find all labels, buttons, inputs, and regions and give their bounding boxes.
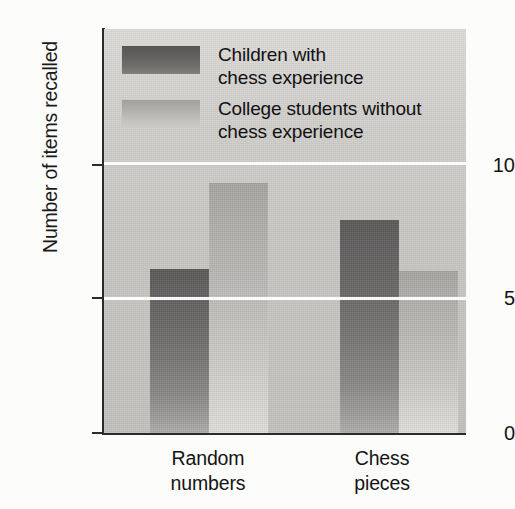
gridline-5 [104,297,466,300]
bar-college-students-random-numbers [209,183,268,433]
legend-item-college-students: College students without chess experienc… [122,97,421,143]
y-axis-title: Number of items recalled [39,12,65,282]
x-category-label-chess-pieces: Chess pieces [312,446,452,496]
bar-chart-figure: Number of items recalled 10 5 0 Children… [0,0,515,509]
y-tick-label-5: 5 [473,288,515,308]
y-tick-label-10: 10 [473,155,515,175]
legend: Children with chess experience College s… [104,29,466,157]
x-category-label-random-numbers: Random numbers [128,446,288,496]
bar-children-random-numbers [150,269,209,433]
legend-swatch-college-students-icon [122,100,200,128]
legend-label-children: Children with chess experience [218,43,363,89]
bar-children-chess-pieces [340,220,399,433]
gridline-10 [104,162,466,165]
legend-label-college-students: College students without chess experienc… [218,97,421,143]
legend-swatch-children-icon [122,46,200,74]
y-tick-label-0: 0 [473,423,515,443]
legend-item-children: Children with chess experience [122,43,363,89]
plot-area: Children with chess experience College s… [104,29,466,433]
bar-college-students-chess-pieces [399,271,458,433]
